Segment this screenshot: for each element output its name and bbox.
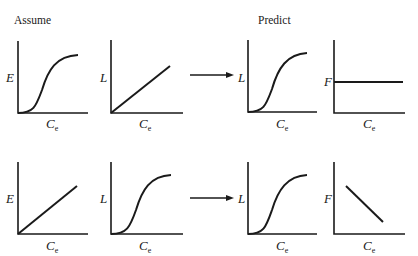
- x-label: Ce: [276, 238, 289, 255]
- sigmoid-curve: [248, 53, 307, 112]
- arrow-right-icon: [226, 72, 234, 78]
- x-label: Ce: [139, 116, 152, 133]
- row2-assume-L-plot: L Ce: [99, 162, 183, 255]
- row1-predict-F-plot: F Ce: [323, 40, 405, 133]
- row1-assume-E-plot: E Ce: [5, 41, 88, 133]
- arrow-right-icon: [226, 195, 234, 201]
- sigmoid-curve: [248, 175, 307, 234]
- row1-arrow: [190, 72, 234, 78]
- y-label: L: [237, 70, 245, 85]
- y-label: L: [99, 70, 107, 85]
- x-label: Ce: [46, 238, 59, 255]
- x-label: Ce: [363, 116, 376, 133]
- y-label: E: [5, 70, 14, 85]
- row2-assume-E-plot: E Ce: [5, 162, 88, 255]
- y-label: F: [323, 74, 333, 89]
- row1-assume-L-plot: L Ce: [99, 40, 183, 133]
- y-label: L: [99, 191, 107, 206]
- y-label: E: [5, 191, 14, 206]
- sigmoid-curve: [111, 175, 171, 234]
- x-label: Ce: [276, 116, 289, 133]
- diagram-canvas: E Ce L Ce L Ce F Ce E Ce L Ce: [0, 0, 418, 256]
- row2-predict-L-plot: L Ce: [237, 162, 317, 255]
- row2-predict-F-plot: F Ce: [323, 162, 405, 255]
- row2-arrow: [190, 195, 234, 201]
- linear-increasing-line: [111, 66, 170, 113]
- y-label: F: [323, 191, 333, 206]
- x-label: Ce: [363, 238, 376, 255]
- x-label: Ce: [139, 238, 152, 255]
- sigmoid-curve: [18, 55, 78, 113]
- x-label: Ce: [46, 116, 59, 133]
- y-label: L: [237, 191, 245, 206]
- linear-decreasing-line: [346, 186, 383, 222]
- linear-increasing-line: [18, 186, 77, 234]
- row1-predict-L-plot: L Ce: [237, 40, 317, 133]
